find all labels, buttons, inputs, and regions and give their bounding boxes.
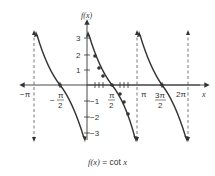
- y-tick-neg1: −1: [90, 97, 100, 106]
- y-tick-neg3: −3: [90, 129, 100, 138]
- x-tick-3half-pi-den: 2: [158, 101, 163, 110]
- cot-graph: f(x) x 3 2 1 −1 −2 −3 −π − π 2 π 2 π 3π …: [0, 0, 215, 176]
- caption-eq: = cot: [100, 157, 123, 167]
- x-tick-neg-half-pi-num: π: [58, 91, 64, 100]
- caption-var: x: [123, 157, 127, 167]
- caption-lhs: f(x): [88, 157, 100, 167]
- x-tick-half-pi-num: π: [109, 91, 115, 100]
- x-tick-pi: π: [141, 90, 147, 99]
- x-tick-3half-pi-num: 3π: [155, 91, 165, 100]
- y-axis-label: f(x): [81, 11, 92, 20]
- y-tick-3: 3: [76, 34, 81, 43]
- x-tick-neg-pi: −π: [20, 90, 31, 99]
- x-tick-half-pi-den: 2: [109, 101, 114, 110]
- x-tick-neg-half-pi-minus: −: [50, 96, 55, 105]
- x-tick-neg-half-pi-den: 2: [58, 101, 63, 110]
- y-tick-neg2: −2: [90, 113, 100, 122]
- x-axis-label: x: [201, 90, 206, 99]
- branch-3: [140, 35, 186, 138]
- x-tick-2pi: 2π: [176, 90, 186, 99]
- chart-caption: f(x) = cot x: [0, 157, 215, 167]
- y-tick-1: 1: [76, 66, 81, 75]
- y-tick-2: 2: [76, 51, 81, 60]
